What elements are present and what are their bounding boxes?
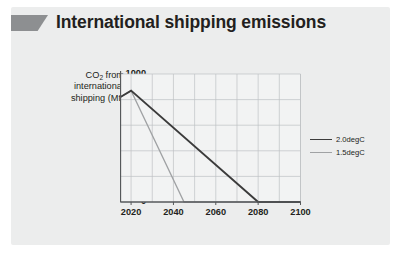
plot-area	[120, 70, 305, 222]
y-axis-title-subscript: 2	[99, 74, 103, 81]
chart-legend: 2.0degC1.5degC	[310, 133, 365, 159]
legend-line-swatch	[310, 139, 332, 140]
parallelogram-flag-icon	[11, 15, 48, 31]
legend-item[interactable]: 1.5degC	[310, 146, 365, 159]
legend-line-swatch	[310, 152, 332, 153]
x-tick-label: 2080	[248, 208, 268, 217]
x-tick-label: 2060	[206, 208, 226, 217]
x-tick-label-group: 20202040206020802100	[120, 208, 305, 222]
figure-root: International shipping emissions CO2 fro…	[0, 0, 405, 257]
legend-label: 1.5degC	[336, 149, 365, 157]
x-tick-label: 2020	[121, 208, 141, 217]
x-tick-label: 2040	[163, 208, 183, 217]
legend-label: 2.0degC	[336, 136, 365, 144]
page-title: International shipping emissions	[56, 14, 326, 32]
legend-item[interactable]: 2.0degC	[310, 133, 365, 146]
chart-canvas	[120, 70, 305, 222]
chart-title-row: International shipping emissions	[11, 10, 326, 36]
y-axis-title: CO2 frominternationalshipping (Mt)	[34, 70, 124, 104]
x-tick-label: 2100	[290, 208, 310, 217]
